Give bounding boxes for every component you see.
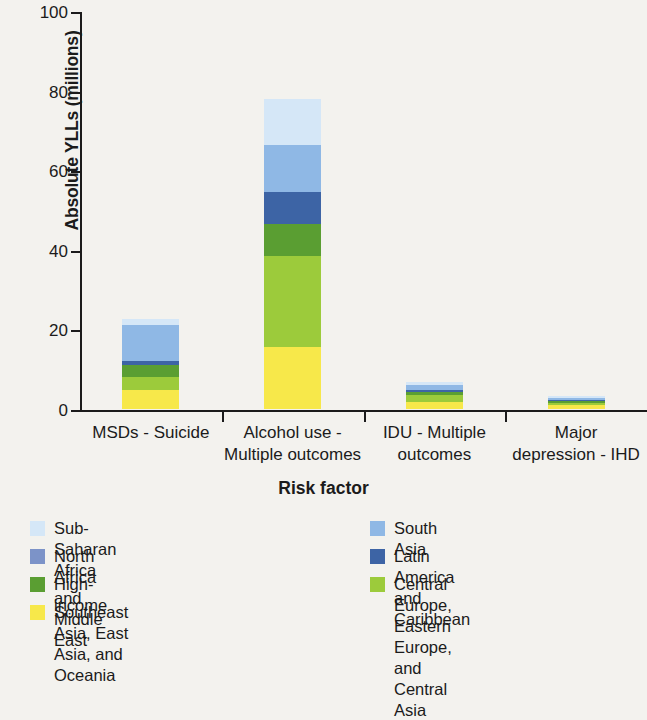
x-axis-category-label-line: Major <box>491 422 647 444</box>
y-axis-tick-label: 80 <box>22 84 68 101</box>
x-axis-category-label: Majordepression - IHD <box>491 422 647 466</box>
x-axis-tick <box>364 412 366 422</box>
y-axis-tick-label: 0 <box>22 402 68 419</box>
y-axis-tick <box>71 12 80 14</box>
plot-area: 020406080100 <box>80 12 647 411</box>
legend-item-label: Central Europe, Eastern Europe, and Cent… <box>394 574 452 720</box>
legend-color-swatch <box>370 521 385 536</box>
y-axis-tick-label: 20 <box>22 322 68 339</box>
bar-segment <box>406 402 463 409</box>
bar-segment <box>264 145 321 192</box>
y-axis-tick-label: 40 <box>22 243 68 260</box>
bar-stack[interactable] <box>548 396 605 409</box>
legend-color-swatch <box>30 577 45 592</box>
bar-segment <box>264 99 321 146</box>
x-axis-category-label-line: depression - IHD <box>491 444 647 466</box>
bar-segment <box>122 325 179 361</box>
legend-item-label: Southeast Asia, East Asia, and Oceania <box>54 602 128 686</box>
bar-segment <box>264 347 321 409</box>
y-axis-tick <box>71 251 80 253</box>
x-axis-tick <box>505 412 507 422</box>
y-axis-tick-label: 60 <box>22 163 68 180</box>
x-axis-title: Risk factor <box>0 478 647 499</box>
x-axis-tick <box>222 412 224 422</box>
bar-segment <box>122 365 179 377</box>
y-axis-tick <box>71 410 80 412</box>
bar-segment <box>122 390 179 409</box>
y-axis-tick <box>71 92 80 94</box>
y-axis-tick <box>71 171 80 173</box>
legend-color-swatch <box>30 605 45 620</box>
bar-stack[interactable] <box>122 319 179 409</box>
bar-stack[interactable] <box>406 382 463 409</box>
legend-color-swatch <box>370 549 385 564</box>
bar-stack[interactable] <box>264 99 321 409</box>
legend: Sub-Saharan AfricaNorth Africa and Middl… <box>0 518 647 636</box>
y-axis-tick <box>71 330 80 332</box>
bar-segment <box>122 377 179 390</box>
bar-segment <box>264 256 321 348</box>
legend-color-swatch <box>30 521 45 536</box>
bar-segment <box>264 192 321 224</box>
bar-segment <box>264 224 321 256</box>
y-axis-line <box>80 12 82 412</box>
legend-color-swatch <box>370 577 385 592</box>
bar-segment <box>548 405 605 409</box>
y-axis-tick-label: 100 <box>22 4 68 21</box>
legend-color-swatch <box>30 549 45 564</box>
